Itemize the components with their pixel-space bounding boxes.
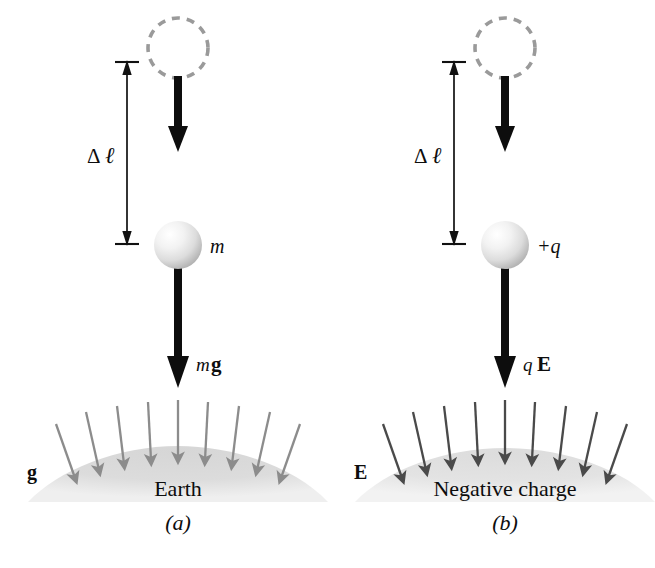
force-label-scalar: m xyxy=(196,354,210,375)
figure-canvas: m Δ ℓ m g g Earth (a) xyxy=(0,0,655,568)
length-symbol: ℓ xyxy=(105,143,115,168)
initial-position-circle-a xyxy=(148,18,208,78)
dimension-label-a: Δ ℓ xyxy=(87,143,115,168)
mass-label: m xyxy=(210,235,224,257)
dimension-line-a xyxy=(115,60,139,246)
displacement-arrow-a xyxy=(168,76,188,152)
mass-sphere xyxy=(154,221,202,269)
panel-b: +q Δ ℓ q E E Negative charge (b) xyxy=(354,18,655,535)
physics-figure: m Δ ℓ m g g Earth (a) xyxy=(0,0,655,568)
dimension-label-b: Δ ℓ xyxy=(414,143,442,168)
force-label-vector: g xyxy=(211,352,222,376)
panel-a: m Δ ℓ m g g Earth (a) xyxy=(27,18,328,535)
force-label-vector: E xyxy=(537,352,551,376)
delta-symbol: Δ xyxy=(414,144,428,168)
delta-symbol: Δ xyxy=(87,144,101,168)
field-label-g: g xyxy=(27,461,37,484)
surface-label-negative-charge: Negative charge xyxy=(433,476,576,501)
panel-label-b: (b) xyxy=(492,510,518,535)
force-label-b: q E xyxy=(523,352,551,376)
length-symbol: ℓ xyxy=(432,143,442,168)
charge-sphere xyxy=(481,221,529,269)
initial-position-circle-b xyxy=(475,18,535,78)
displacement-arrow-b xyxy=(495,76,515,152)
force-label-a: m g xyxy=(196,352,222,376)
charge-label: +q xyxy=(537,235,561,258)
force-label-scalar: q xyxy=(523,354,533,375)
panel-label-a: (a) xyxy=(165,510,191,535)
surface-label-earth: Earth xyxy=(154,476,202,501)
field-label-e: E xyxy=(354,461,367,483)
dimension-line-b xyxy=(442,60,466,246)
